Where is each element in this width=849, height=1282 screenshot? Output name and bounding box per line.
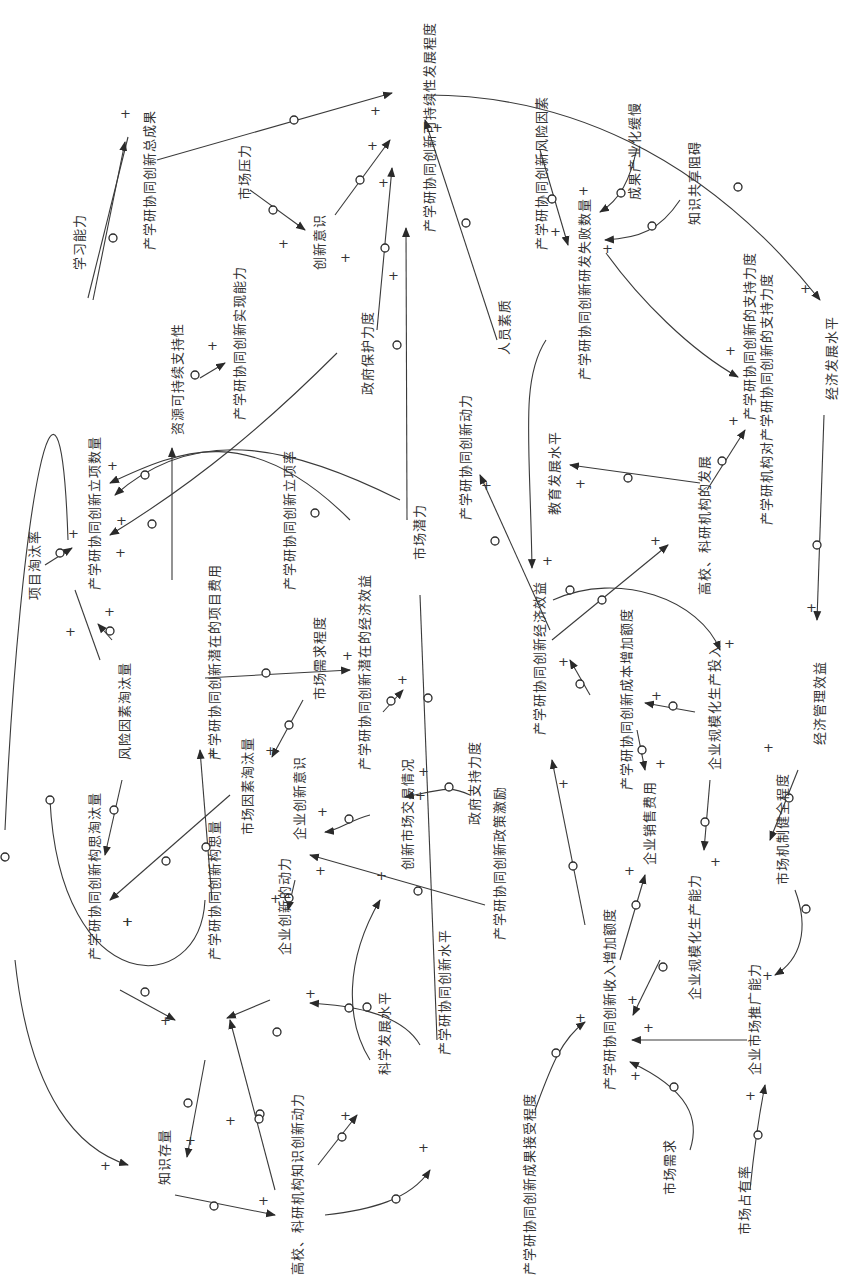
node-label: 产学研协同创新构思淘汰量 <box>88 792 102 960</box>
node-label: 人员素质 <box>498 299 512 355</box>
link-production-to-capacity <box>704 780 710 850</box>
svg-text:+: + <box>207 338 218 353</box>
link-science-to-trading <box>352 900 380 1060</box>
svg-text:+: + <box>104 604 115 619</box>
node-label: 科学发展水平 <box>378 991 392 1075</box>
svg-text:+: + <box>65 624 76 639</box>
svg-text:+: + <box>558 654 569 669</box>
link-risk-elim-to-idea-elim <box>105 780 122 855</box>
svg-text:+: + <box>763 740 774 755</box>
node-label: 风险因素淘汰量 <box>118 662 132 760</box>
link-acceptance-to-revenue <box>535 1022 585 1110</box>
svg-text:+: + <box>116 513 127 528</box>
node-label: 创新意识 <box>313 214 327 270</box>
link-left-to-stock <box>15 960 128 1165</box>
node-label: 企业销售费用 <box>643 781 657 865</box>
svg-text:+: + <box>370 103 381 118</box>
node-label: 产学研协同创新可持续性发展程度 <box>423 22 437 232</box>
svg-text:+: + <box>655 756 666 771</box>
link-cost-to-potential-benefits <box>205 670 350 678</box>
svg-text:+: + <box>762 968 773 983</box>
link-failures-to-support <box>606 253 738 377</box>
node-label: 产学研协同创新经济效益 <box>533 581 547 735</box>
svg-text:+: + <box>418 1140 429 1155</box>
node-label: 教育发展水平 <box>548 431 562 515</box>
svg-text:+: + <box>265 743 276 758</box>
svg-text:+: + <box>728 413 739 428</box>
link-knowledge-motivation-to-science <box>318 1115 357 1165</box>
svg-text:+: + <box>710 854 721 869</box>
node-label: 市场占有率 <box>738 1165 752 1235</box>
node-label: 市场潜力 <box>413 504 427 560</box>
svg-text:+: + <box>624 863 635 878</box>
svg-text:+: + <box>317 804 328 819</box>
link-economy-to-management <box>817 415 824 620</box>
svg-text:+: + <box>558 776 569 791</box>
link-idea-loop <box>50 800 205 966</box>
node-label: 项目淘汰率 <box>28 530 42 600</box>
node-label: 产学研协同创新实现能力 <box>233 266 247 420</box>
svg-text:+: + <box>340 250 351 265</box>
svg-text:+: + <box>258 1193 269 1208</box>
svg-text:+: + <box>315 863 326 878</box>
link-risk2-to-benefits <box>528 340 546 568</box>
svg-text:+: + <box>481 478 492 493</box>
svg-text:+: + <box>376 868 387 883</box>
node-label: 市场因素淘汰量 <box>241 737 255 835</box>
svg-text:+: + <box>651 688 662 703</box>
svg-text:+: + <box>806 600 817 615</box>
svg-text:+: + <box>367 138 378 153</box>
node-label: 产学研协同创新政策激励 <box>493 786 507 940</box>
svg-text:+: + <box>630 1068 641 1083</box>
node-label: 成果产业化缓慢 <box>628 102 642 200</box>
svg-text:+: + <box>575 1010 586 1025</box>
svg-text:+: + <box>225 1113 236 1128</box>
causal-links <box>5 93 824 1215</box>
link-sustainability-to-economy <box>427 95 820 300</box>
link-level-line <box>420 595 437 1040</box>
svg-text:+: + <box>550 224 561 239</box>
svg-text:+: + <box>397 672 408 687</box>
link-motivation-to-sustainability <box>406 228 407 520</box>
link-total-results-to-sustainability <box>157 93 392 160</box>
link-knowledge-motivation-to-level <box>325 1170 430 1215</box>
svg-text:+: + <box>115 545 126 560</box>
link-resources-to-capability <box>200 363 225 378</box>
link-cost-increase-to-benefits <box>570 660 590 695</box>
svg-text:+: + <box>724 636 735 651</box>
link-motivation-to-ideas <box>227 1000 270 1018</box>
svg-text:+: + <box>120 106 131 121</box>
node-label: 产学研协同创新潜在的项目费用 <box>208 564 222 760</box>
svg-text:+: + <box>542 553 553 568</box>
link-knowledge-barrier-to-failures <box>605 200 680 240</box>
node-label: 企业规模化生产能力 <box>688 874 702 1000</box>
node-label: 创新市场交易情况 <box>401 758 415 870</box>
link-mech-to-promotion <box>775 890 802 975</box>
svg-text:+: + <box>107 458 118 473</box>
svg-text:+: + <box>378 175 389 190</box>
node-label: 产学研机构对产学研协同创新的支持力度 <box>760 273 774 525</box>
node-label: 企业规模化生产投入 <box>708 644 722 770</box>
node-label: 企业市场推广能力 <box>748 963 762 1075</box>
node-label: 产学研协同创新的支持力度 <box>743 252 757 420</box>
svg-text:+: + <box>68 526 79 541</box>
link-knowledge-motivation-to-ideas <box>230 1020 275 1190</box>
svg-text:+: + <box>160 1013 171 1028</box>
node-label: 产学研协同创新潜在的经济效益 <box>358 574 372 770</box>
link-projects-to-elimination <box>75 590 100 660</box>
node-label: 政府支持力度 <box>468 741 482 825</box>
node-label: 产学研协同创新立项率 <box>283 450 297 590</box>
node-label: 产学研协同创新成本增加额度 <box>620 608 634 790</box>
node-label: 政府保护力度 <box>361 311 375 395</box>
node-label: 知识存量 <box>158 1129 172 1185</box>
link-learning-to-total-results <box>93 142 125 300</box>
node-label: 资源可持续支持性 <box>171 323 185 435</box>
svg-text:+: + <box>278 236 289 251</box>
link-revenue-to-sales <box>620 875 645 960</box>
node-label: 学习能力 <box>73 214 87 270</box>
svg-text:+: + <box>305 986 316 1001</box>
node-label: 产学研协同创新成果接受程度 <box>523 1093 537 1275</box>
node-label: 产学研协同创新研发失败数量 <box>578 198 592 380</box>
svg-text:+: + <box>185 1133 196 1148</box>
node-label: 产学研协同创新动力 <box>459 394 473 520</box>
